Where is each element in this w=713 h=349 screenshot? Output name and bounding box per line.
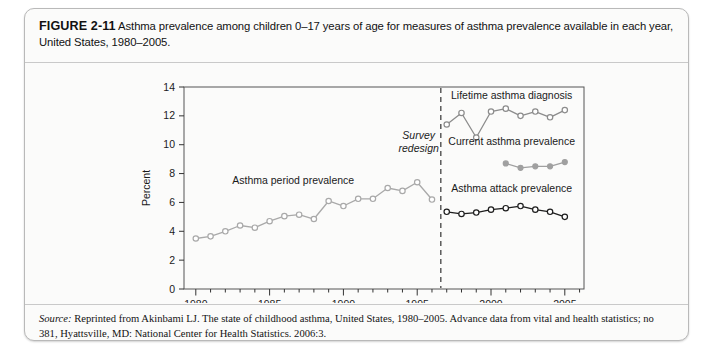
y-axis-tick-label: 8 [169, 167, 175, 179]
y-axis-tick-label: 10 [163, 138, 175, 150]
figure-card: FIGURE 2-11 Asthma prevalence among chil… [24, 8, 689, 341]
series-label: Asthma period prevalence [232, 174, 354, 186]
data-point [282, 213, 287, 218]
data-point [223, 229, 228, 234]
data-point [503, 106, 508, 111]
data-point [208, 234, 213, 239]
series-3: Asthma attack prevalence [444, 182, 572, 219]
data-point [429, 197, 434, 202]
data-point [341, 203, 346, 208]
series-label: Lifetime asthma diagnosis [451, 89, 572, 101]
data-point [444, 209, 449, 214]
data-point [533, 109, 538, 114]
data-point [547, 115, 552, 120]
y-axis-tick-label: 6 [169, 196, 175, 208]
y-axis-tick-label: 4 [169, 225, 175, 237]
x-axis-tick-label: 1995 [406, 298, 430, 303]
data-point [503, 161, 508, 166]
series-label: Asthma attack prevalence [451, 182, 572, 194]
y-axis-title: Percent [140, 170, 152, 206]
series-2: Current asthma prevalence [448, 135, 575, 171]
data-point [459, 110, 464, 115]
data-point [400, 188, 405, 193]
asthma-prevalence-line-chart: 02468101214Percent1980198519901995200020… [25, 63, 690, 303]
chart-plot-area: 02468101214Percent1980198519901995200020… [25, 63, 690, 303]
source-text: Reprinted from Akinbami LJ. The state of… [39, 313, 654, 339]
data-point [518, 203, 523, 208]
data-point [474, 210, 479, 215]
data-point [562, 160, 567, 165]
divider-bottom [25, 304, 688, 305]
data-point [518, 165, 523, 170]
data-point [533, 164, 538, 169]
data-point [548, 164, 553, 169]
data-point [459, 211, 464, 216]
data-point [252, 225, 257, 230]
source-note: Source: Reprinted from Akinbami LJ. The … [39, 312, 674, 341]
x-axis-tick-label: 1990 [332, 298, 356, 303]
x-axis-tick-label: 2005 [553, 298, 577, 303]
data-point [488, 207, 493, 212]
data-point [237, 223, 242, 228]
data-point [267, 218, 272, 223]
survey-redesign-line: Survey [402, 129, 435, 141]
data-point [355, 196, 360, 201]
survey-redesign-line: redesign [399, 142, 439, 154]
y-axis-tick-label: 14 [163, 81, 175, 93]
series-line [196, 182, 432, 238]
data-point [503, 206, 508, 211]
figure-number: FIGURE 2-11 [39, 19, 116, 33]
x-axis-tick-label: 1985 [258, 298, 282, 303]
series-1: Lifetime asthma diagnosis [444, 89, 572, 141]
data-point [547, 209, 552, 214]
data-point [518, 113, 523, 118]
y-axis-tick-label: 12 [163, 109, 175, 121]
survey-redesign-annotation: Surveyredesign [399, 129, 439, 154]
figure-caption-text: Asthma prevalence among children 0–17 ye… [39, 20, 673, 48]
data-point [370, 196, 375, 201]
source-prefix: Source: [39, 313, 72, 324]
series-label: Current asthma prevalence [448, 135, 575, 147]
data-point [562, 107, 567, 112]
data-point [296, 212, 301, 217]
series-0: Asthma period prevalence [193, 174, 435, 242]
figure-caption: FIGURE 2-11 Asthma prevalence among chil… [39, 19, 674, 50]
x-axis-tick-label: 2000 [479, 298, 503, 303]
data-point [444, 122, 449, 127]
data-point [415, 180, 420, 185]
data-point [326, 198, 331, 203]
data-point [311, 216, 316, 221]
data-point [533, 207, 538, 212]
data-point [193, 236, 198, 241]
y-axis-tick-label: 0 [169, 283, 175, 295]
x-axis-tick-label: 1980 [184, 298, 208, 303]
y-axis-tick-label: 2 [169, 254, 175, 266]
data-point [385, 185, 390, 190]
data-point [562, 214, 567, 219]
data-point [488, 109, 493, 114]
